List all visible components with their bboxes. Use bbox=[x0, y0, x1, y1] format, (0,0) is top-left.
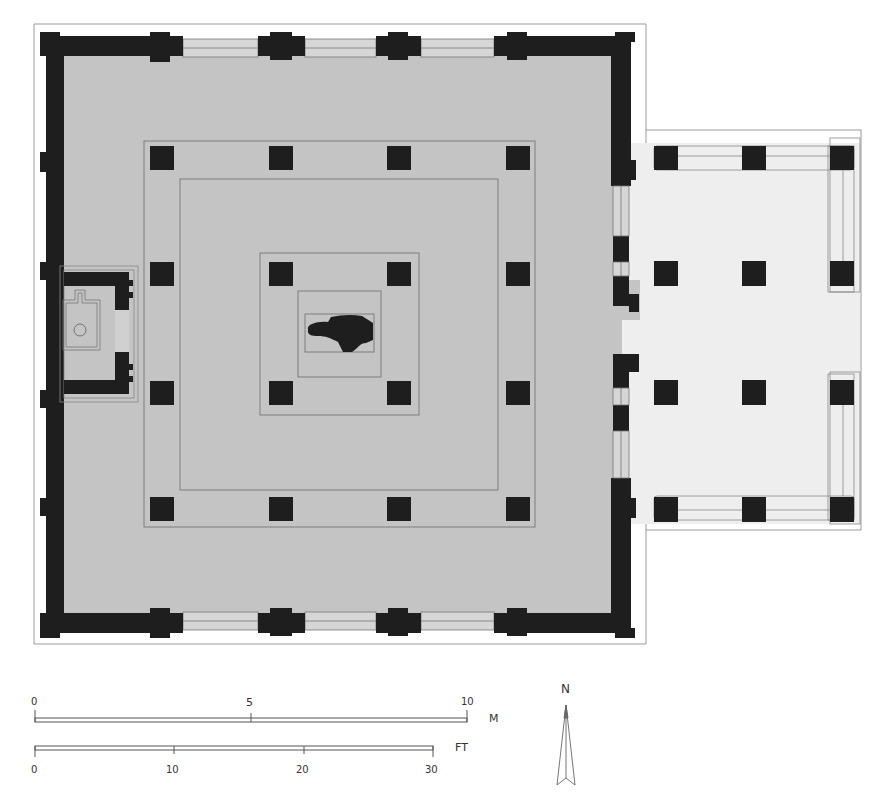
east-porch-floor bbox=[620, 143, 860, 524]
imperial-unit-label: FT bbox=[455, 742, 468, 753]
north-arrow-icon bbox=[557, 705, 575, 785]
imperial-tick-10: 10 bbox=[166, 765, 179, 775]
metric-scale-bar bbox=[35, 710, 467, 722]
metric-tick-5: 5 bbox=[246, 697, 253, 708]
metric-unit-label: M bbox=[489, 713, 499, 724]
metric-tick-10: 10 bbox=[461, 697, 474, 707]
floor-plan bbox=[0, 0, 891, 808]
imperial-tick-0: 0 bbox=[31, 765, 37, 775]
imperial-tick-30: 30 bbox=[425, 765, 438, 775]
imperial-scale-bar bbox=[35, 746, 433, 757]
metric-tick-0: 0 bbox=[31, 697, 37, 707]
north-label: N bbox=[561, 683, 570, 695]
imperial-tick-20: 20 bbox=[296, 765, 309, 775]
